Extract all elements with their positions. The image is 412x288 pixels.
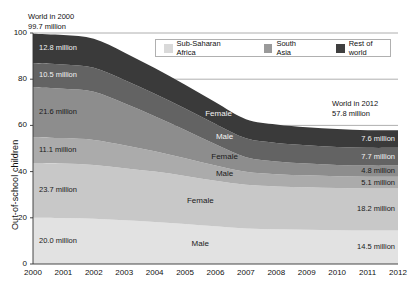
legend-label: Rest of world <box>349 39 390 57</box>
x-tick-label-2011: 2011 <box>353 268 383 277</box>
legend-label: Sub-Saharan Africa <box>177 39 238 57</box>
band-label-south-asia-female: Female <box>211 152 238 161</box>
legend-swatch-sub-saharan-africa <box>164 44 173 53</box>
annotation-world-2012: World in 2012 57.8 million <box>332 99 378 118</box>
y-tick-label-20: 20 <box>5 213 27 222</box>
annotation-world-2012-line2: 57.8 million <box>332 109 378 119</box>
legend-label: South Asia <box>276 39 310 57</box>
band-label-sub-saharan-africa-male: Male <box>192 239 209 248</box>
x-tick-label-2003: 2003 <box>109 268 139 277</box>
annotation-world-2000-line2: 99.7 million <box>28 22 74 32</box>
y-tick-label-0: 0 <box>5 259 27 268</box>
annotation-world-2012-line1: World in 2012 <box>332 99 378 109</box>
x-tick-label-2012: 2012 <box>383 268 412 277</box>
y-tick-label-60: 60 <box>5 120 27 129</box>
band-start-value-rest-of-world-female: 12.8 million <box>39 43 77 52</box>
x-tick-label-2005: 2005 <box>170 268 200 277</box>
band-label-sub-saharan-africa-female: Female <box>187 196 214 205</box>
y-tick-label-40: 40 <box>5 167 27 176</box>
x-tick-label-2000: 2000 <box>18 268 48 277</box>
legend-swatch-south-asia <box>264 44 272 53</box>
band-start-value-south-asia-female: 21.6 million <box>39 107 77 116</box>
band-end-value-south-asia-male: 5.1 million <box>361 178 395 187</box>
band-end-value-rest-of-world-female: 7.6 million <box>361 134 395 143</box>
y-tick-label-80: 80 <box>5 74 27 83</box>
legend-item-rest-of-world: Rest of world <box>336 39 390 57</box>
annotation-world-2000-line1: World in 2000 <box>28 12 74 22</box>
x-tick-label-2010: 2010 <box>322 268 352 277</box>
x-tick-label-2004: 2004 <box>140 268 170 277</box>
band-label-south-asia-male: Male <box>216 169 233 178</box>
band-label-rest-of-world-female: Female <box>205 109 232 118</box>
band-start-value-rest-of-world-male: 10.5 million <box>39 70 77 79</box>
legend-item-south-asia: South Asia <box>264 39 310 57</box>
band-start-value-south-asia-male: 11.1 million <box>39 145 76 154</box>
band-end-value-sub-saharan-africa-female: 18.2 million <box>357 204 395 213</box>
band-start-value-sub-saharan-africa-male: 20.0 million <box>39 236 77 245</box>
x-tick-label-2007: 2007 <box>231 268 261 277</box>
band-start-value-sub-saharan-africa-female: 23.7 million <box>39 185 77 194</box>
band-end-value-sub-saharan-africa-male: 14.5 million <box>357 242 395 251</box>
x-tick-label-2006: 2006 <box>201 268 231 277</box>
x-tick-label-2002: 2002 <box>79 268 109 277</box>
annotation-world-2000: World in 2000 99.7 million <box>28 12 74 31</box>
y-tick-label-100: 100 <box>5 28 27 37</box>
legend-item-sub-saharan-africa: Sub-Saharan Africa <box>164 39 238 57</box>
x-tick-label-2008: 2008 <box>261 268 291 277</box>
x-tick-label-2009: 2009 <box>292 268 322 277</box>
x-tick-label-2001: 2001 <box>48 268 78 277</box>
band-end-value-south-asia-female: 4.8 million <box>361 166 395 175</box>
legend-swatch-rest-of-world <box>336 44 344 53</box>
legend: Sub-Saharan AfricaSouth AsiaRest of worl… <box>155 39 391 57</box>
band-end-value-rest-of-world-male: 7.7 million <box>361 152 395 161</box>
band-label-rest-of-world-male: Male <box>216 132 233 141</box>
